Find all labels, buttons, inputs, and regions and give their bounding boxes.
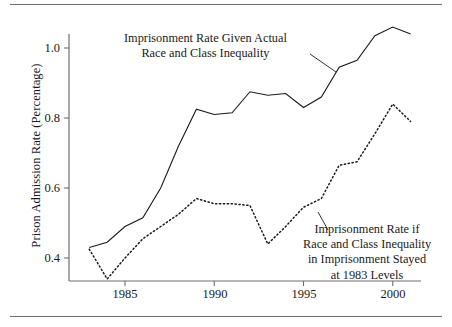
x-tick-label-1995: 1995	[281, 288, 327, 300]
x-tick-label-2000: 2000	[370, 288, 416, 300]
x-tick-label-1985: 1985	[102, 288, 148, 300]
y-tick-label-0.6: 0.6	[26, 182, 60, 194]
annotation-actual-line1: Imprisonment Rate Given Actual	[124, 31, 287, 46]
figure-container: Prison Admission Rate (Percentage) 0.4 0…	[0, 0, 452, 327]
annotation-counterfactual-line2: Race and Class Inequality	[303, 237, 431, 252]
annotation-counterfactual-line1: Imprisonment Rate if	[303, 222, 431, 237]
y-axis-label: Prison Admission Rate (Percentage)	[29, 41, 44, 271]
annotation-counterfactual-line4: at 1983 Levels	[303, 268, 431, 283]
y-tick-label-1.0: 1.0	[26, 42, 60, 54]
y-tick-label-0.8: 0.8	[26, 112, 60, 124]
y-tick-label-0.4: 0.4	[26, 252, 60, 264]
leader-line-actual-annotation	[310, 54, 336, 72]
annotation-counterfactual-rate: Imprisonment Rate if Race and Class Ineq…	[303, 222, 431, 283]
annotation-actual-rate: Imprisonment Rate Given Actual Race and …	[124, 31, 287, 61]
x-tick-label-1990: 1990	[192, 288, 238, 300]
annotation-actual-line2: Race and Class Inequality	[124, 46, 287, 61]
y-axis-ticks	[64, 48, 69, 258]
annotation-counterfactual-line3: in Imprisonment Stayed	[303, 252, 431, 267]
